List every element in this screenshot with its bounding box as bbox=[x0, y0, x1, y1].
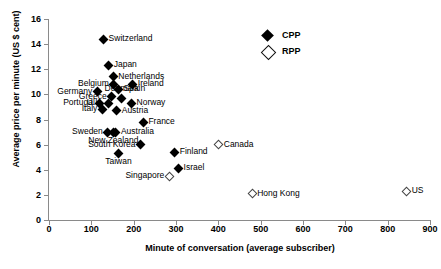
data-point-label: Taiwan bbox=[105, 157, 131, 166]
x-tick-label: 100 bbox=[71, 224, 111, 234]
x-tick-label: 600 bbox=[283, 224, 323, 234]
y-tick-label: 16 bbox=[22, 14, 41, 24]
plot-area: SwitzerlandJapanNetherlandsBelgiumIrelan… bbox=[49, 19, 430, 220]
legend-item: RPP bbox=[262, 43, 301, 59]
open-diamond-marker bbox=[247, 189, 257, 199]
x-tick-label: 0 bbox=[29, 224, 69, 234]
y-tick-label: 12 bbox=[22, 64, 41, 74]
y-tick-label: 8 bbox=[22, 115, 41, 125]
open-diamond-marker bbox=[214, 140, 224, 150]
scatter-chart: 0246810121416 01002003004005006007008009… bbox=[0, 0, 441, 269]
data-point-label: Austria bbox=[122, 106, 148, 115]
open-diamond-icon bbox=[262, 46, 273, 57]
data-point-label: Israel bbox=[184, 163, 205, 172]
data-point-label: Switzerland bbox=[109, 34, 153, 43]
filled-diamond-marker bbox=[104, 61, 114, 71]
x-axis-title: Minute of conversation (average subscrib… bbox=[49, 243, 431, 253]
x-tick-label: 400 bbox=[198, 224, 238, 234]
legend-label: RPP bbox=[282, 46, 301, 56]
y-tick-label: 6 bbox=[22, 140, 41, 150]
filled-diamond-marker bbox=[170, 147, 180, 157]
data-point-label: Hong Kong bbox=[257, 189, 300, 198]
data-point-label: Italy bbox=[82, 104, 98, 113]
x-tick-label: 200 bbox=[114, 224, 154, 234]
y-tick-label: 14 bbox=[22, 39, 41, 49]
data-point-label: Australia bbox=[121, 127, 154, 136]
chart-legend: CPPRPP bbox=[262, 27, 301, 59]
x-tick-label: 700 bbox=[325, 224, 365, 234]
data-point-label: Canada bbox=[224, 140, 254, 149]
data-point-label: Singapore bbox=[125, 171, 164, 180]
open-diamond-marker bbox=[402, 186, 412, 196]
x-tick-label: 300 bbox=[156, 224, 196, 234]
y-tick-label: 10 bbox=[22, 89, 41, 99]
x-tick-label: 500 bbox=[241, 224, 281, 234]
filled-diamond-marker bbox=[112, 106, 122, 116]
filled-diamond-icon bbox=[262, 30, 273, 41]
legend-item: CPP bbox=[262, 27, 301, 43]
y-axis-title: Average price per minute (US $ cent) bbox=[11, 0, 21, 189]
filled-diamond-marker bbox=[174, 164, 184, 174]
filled-diamond-marker bbox=[117, 93, 127, 103]
x-tick-label: 800 bbox=[368, 224, 408, 234]
filled-diamond-marker bbox=[135, 140, 145, 150]
data-point-label: Japan bbox=[114, 60, 137, 69]
data-point-label: Denmark bbox=[105, 84, 139, 93]
data-point-label: Finland bbox=[180, 147, 208, 156]
data-point-label: South Korea bbox=[88, 140, 135, 149]
y-tick-label: 4 bbox=[22, 165, 41, 175]
open-diamond-marker bbox=[164, 171, 174, 181]
y-tick-label: 2 bbox=[22, 190, 41, 200]
legend-label: CPP bbox=[282, 30, 301, 40]
x-axis-line bbox=[48, 220, 431, 221]
data-point-label: France bbox=[148, 117, 174, 126]
filled-diamond-marker bbox=[99, 34, 109, 44]
x-tick-label: 900 bbox=[410, 224, 441, 234]
data-point-label: US bbox=[412, 186, 424, 195]
